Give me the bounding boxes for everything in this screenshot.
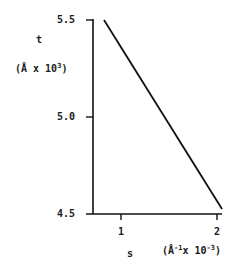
y-axis-units: (Å x 103): [15, 62, 67, 74]
x-axis-name: s: [127, 248, 133, 259]
x-tick-label-1: 1: [118, 226, 124, 237]
y-tick-label-bot: 4.5: [57, 208, 75, 219]
y-tick-label-top: 5.5: [57, 14, 75, 25]
y-tick-label-mid: 5.0: [57, 111, 75, 122]
data-line: [104, 20, 222, 209]
y-axis-name: t: [36, 34, 42, 45]
x-tick-label-2: 2: [214, 226, 220, 237]
x-axis-units: (Å-1x 10-3): [162, 244, 221, 256]
